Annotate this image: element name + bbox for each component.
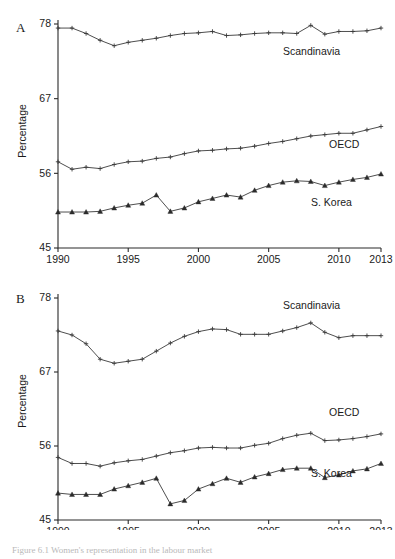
series-line (58, 433, 381, 466)
x-tick-label: 1995 (117, 525, 141, 530)
data-point-plus (112, 162, 116, 166)
data-point-plus (196, 149, 200, 153)
data-point-plus (224, 446, 228, 450)
data-point-plus (224, 33, 228, 37)
data-point-plus (154, 454, 158, 458)
data-point-plus (365, 29, 369, 33)
plot-area-b: 45566778199019952000200520102013Scandina… (0, 275, 395, 530)
series-label-scandinavia: Scandinavia (283, 299, 340, 311)
data-point-plus (365, 434, 369, 438)
data-point-plus (252, 332, 256, 336)
data-point-plus (112, 361, 116, 365)
data-point-plus (196, 446, 200, 450)
data-point-plus (210, 148, 214, 152)
x-tick-label: 1990 (46, 253, 70, 265)
data-point-plus (70, 167, 74, 171)
data-point-plus (379, 432, 383, 436)
data-point-plus (56, 329, 60, 333)
series-label-oecd: OECD (329, 406, 360, 418)
figure-caption: Figure 6.1 Women's representation in the… (12, 545, 392, 555)
data-point-plus (56, 160, 60, 164)
data-point-plus (351, 436, 355, 440)
figure-container: A Percentage 455667781990199520002005201… (0, 0, 395, 559)
y-tick-label: 78 (39, 17, 51, 29)
y-tick-label: 78 (39, 291, 51, 303)
data-point-plus (252, 144, 256, 148)
data-point-plus (126, 359, 130, 363)
data-point-plus (182, 151, 186, 155)
data-point-plus (266, 141, 270, 145)
series-label-s-korea: S. Korea (311, 467, 352, 479)
data-point-plus (168, 341, 172, 345)
data-point-triangle (140, 201, 145, 206)
x-tick-label: 1995 (117, 253, 141, 265)
data-point-plus (154, 36, 158, 40)
data-point-plus (98, 38, 102, 42)
data-point-plus (309, 134, 313, 138)
y-tick-label: 56 (39, 167, 51, 179)
data-point-plus (379, 26, 383, 30)
data-point-plus (379, 333, 383, 337)
data-point-plus (140, 38, 144, 42)
series-line (58, 323, 381, 363)
data-point-plus (238, 33, 242, 37)
data-point-plus (84, 461, 88, 465)
data-point-plus (182, 31, 186, 35)
data-point-plus (280, 139, 284, 143)
data-point-plus (365, 333, 369, 337)
data-point-plus (140, 457, 144, 461)
series-label-s-korea: S. Korea (311, 196, 352, 208)
x-tick-label: 2013 (369, 253, 393, 265)
x-tick-label: 2000 (187, 525, 211, 530)
data-point-plus (280, 31, 284, 35)
data-point-plus (323, 32, 327, 36)
data-point-plus (182, 449, 186, 453)
x-tick-label: 2000 (187, 253, 211, 265)
data-point-plus (337, 335, 341, 339)
data-point-plus (266, 31, 270, 35)
x-tick-label: 2005 (257, 253, 281, 265)
x-tick-label: 2010 (327, 253, 351, 265)
data-point-plus (70, 26, 74, 30)
data-point-plus (351, 131, 355, 135)
data-point-plus (154, 156, 158, 160)
data-point-plus (210, 445, 214, 449)
x-tick-label: 2005 (257, 525, 281, 530)
data-point-plus (154, 349, 158, 353)
data-point-plus (224, 147, 228, 151)
data-point-plus (98, 166, 102, 170)
data-point-triangle (224, 476, 229, 481)
chart-panel-b: B Percentage 455667781990199520002005201… (0, 275, 395, 530)
y-tick-label: 45 (39, 241, 51, 253)
data-point-plus (70, 333, 74, 337)
data-point-plus (56, 455, 60, 459)
chart-panel-a: A Percentage 455667781990199520002005201… (0, 0, 395, 275)
data-point-plus (351, 333, 355, 337)
data-point-plus (266, 332, 270, 336)
data-point-plus (210, 327, 214, 331)
data-point-triangle (379, 172, 384, 177)
data-point-plus (196, 31, 200, 35)
y-tick-label: 56 (39, 439, 51, 451)
data-point-plus (351, 29, 355, 33)
data-point-plus (224, 327, 228, 331)
data-point-plus (252, 31, 256, 35)
data-point-plus (365, 128, 369, 132)
x-tick-label: 1990 (46, 525, 70, 530)
data-point-plus (323, 132, 327, 136)
data-point-plus (70, 461, 74, 465)
data-point-plus (309, 23, 313, 27)
data-point-plus (168, 155, 172, 159)
data-point-plus (252, 443, 256, 447)
data-point-plus (84, 31, 88, 35)
data-point-triangle (182, 205, 187, 210)
data-point-plus (210, 29, 214, 33)
data-point-plus (295, 325, 299, 329)
data-point-triangle (379, 461, 384, 466)
data-point-triangle (224, 193, 229, 198)
data-point-plus (56, 26, 60, 30)
data-point-triangle (154, 193, 159, 198)
data-point-plus (337, 438, 341, 442)
data-point-plus (295, 31, 299, 35)
data-point-plus (238, 446, 242, 450)
